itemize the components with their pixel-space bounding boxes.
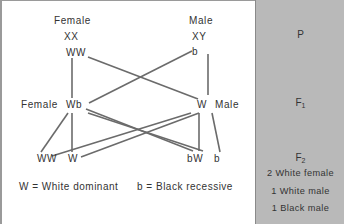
parent-male-chromosomes: XY <box>192 31 207 42</box>
generation-f2: F2 <box>256 152 344 164</box>
f2-result-white-male: 1 White male <box>256 186 344 196</box>
f1-female-label: Female <box>21 99 58 110</box>
f2-offspring-b: b <box>214 153 220 164</box>
parent-male-genotype: b <box>192 46 198 57</box>
generation-p: P <box>256 29 344 40</box>
parent-female-label: Female <box>54 15 91 26</box>
f1-female-genotype: Wb <box>66 99 82 110</box>
parent-female-chromosomes: XX <box>64 31 79 42</box>
legend-recessive: b = Black recessive <box>137 181 233 192</box>
f2-offspring-ww: WW <box>37 153 57 164</box>
f2-result-black-male: 1 Black male <box>256 203 344 213</box>
parent-male-label: Male <box>189 15 213 26</box>
parent-female-genotype: WW <box>66 47 86 58</box>
f2-result-white-female: 2 White female <box>256 168 344 178</box>
f2-offspring-w: W <box>68 153 78 164</box>
f1-male-genotype: W <box>197 99 207 110</box>
f2-offspring-bw: bW <box>187 153 203 164</box>
cross-diagram: Female XX WW Male XY b Female Wb W Male … <box>0 0 255 224</box>
f1-male-label: Male <box>215 99 239 110</box>
generation-f1: F1 <box>256 97 344 109</box>
generation-panel: P F1 F2 2 White female 1 White male 1 Bl… <box>255 0 344 224</box>
legend-dominant: W = White dominant <box>19 181 118 192</box>
